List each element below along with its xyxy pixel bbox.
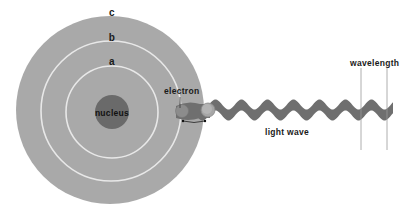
orbit-a-label: a bbox=[109, 56, 115, 67]
nucleus-label: nucleus bbox=[95, 108, 129, 118]
bracket-end-left bbox=[182, 120, 184, 122]
wavelength-label: wavelength bbox=[350, 58, 399, 68]
electron-dot bbox=[176, 105, 189, 118]
orbit-b-label: b bbox=[109, 32, 115, 43]
light-wave bbox=[196, 100, 393, 121]
light-wave-label: light wave bbox=[265, 127, 309, 137]
diagram-canvas bbox=[0, 0, 404, 210]
bracket-end-right bbox=[204, 120, 206, 122]
emitted-electron-highlight bbox=[202, 104, 212, 114]
bohr-atom-diagram: c b a nucleus electron light wave wavele… bbox=[0, 0, 404, 210]
orbit-c-label: c bbox=[109, 7, 115, 18]
electron-label: electron bbox=[164, 86, 199, 96]
